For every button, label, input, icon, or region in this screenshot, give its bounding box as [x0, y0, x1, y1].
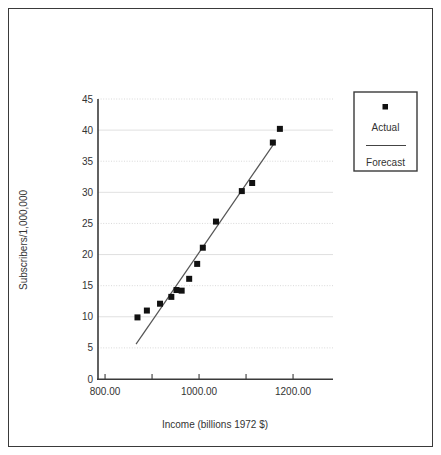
y-tick-label: 15: [82, 280, 94, 291]
data-point-marker: [134, 314, 140, 320]
data-point-marker: [157, 301, 163, 307]
y-tick-label: 5: [87, 342, 93, 353]
chart-screenshot: 051015202530354045 800.001000.001200.00 …: [0, 0, 441, 455]
legend-marker-square-icon: [383, 104, 389, 110]
data-point-marker: [277, 126, 283, 132]
data-point-marker: [173, 287, 179, 293]
y-tick-label: 45: [82, 94, 94, 105]
data-point-marker: [144, 308, 150, 314]
y-tick-label: 30: [82, 187, 94, 198]
legend-label-forecast: Forecast: [366, 157, 405, 168]
legend: Actual Forecast: [354, 92, 417, 171]
data-point-marker: [213, 219, 219, 225]
x-axis-title: Income (billions 1972 $): [162, 419, 268, 430]
x-tick-label: 1200.00: [275, 386, 312, 397]
data-point-marker: [249, 180, 255, 186]
data-point-marker: [239, 188, 245, 194]
data-point-marker: [194, 261, 200, 267]
y-tick-label: 20: [82, 249, 94, 260]
y-tick-label: 35: [82, 156, 94, 167]
y-axis-title: Subscribers/1,000,000: [18, 190, 29, 291]
y-tick-label: 40: [82, 125, 94, 136]
plot-area: [98, 99, 333, 379]
scatter-chart: 051015202530354045 800.001000.001200.00 …: [0, 0, 441, 455]
y-tick-label: 10: [82, 311, 94, 322]
data-point-marker: [270, 140, 276, 146]
data-point-marker: [186, 276, 192, 282]
y-tick-label: 0: [87, 374, 93, 385]
y-tick-labels: 051015202530354045: [82, 94, 94, 385]
x-tick-labels: 800.001000.001200.00: [90, 386, 312, 397]
x-tick-label: 800.00: [90, 386, 121, 397]
data-point-marker: [200, 245, 206, 251]
data-point-marker: [179, 288, 185, 294]
y-tick-label: 25: [82, 218, 94, 229]
x-tick-label: 1000.00: [181, 386, 218, 397]
data-point-marker: [168, 294, 174, 300]
legend-label-actual: Actual: [372, 122, 400, 133]
